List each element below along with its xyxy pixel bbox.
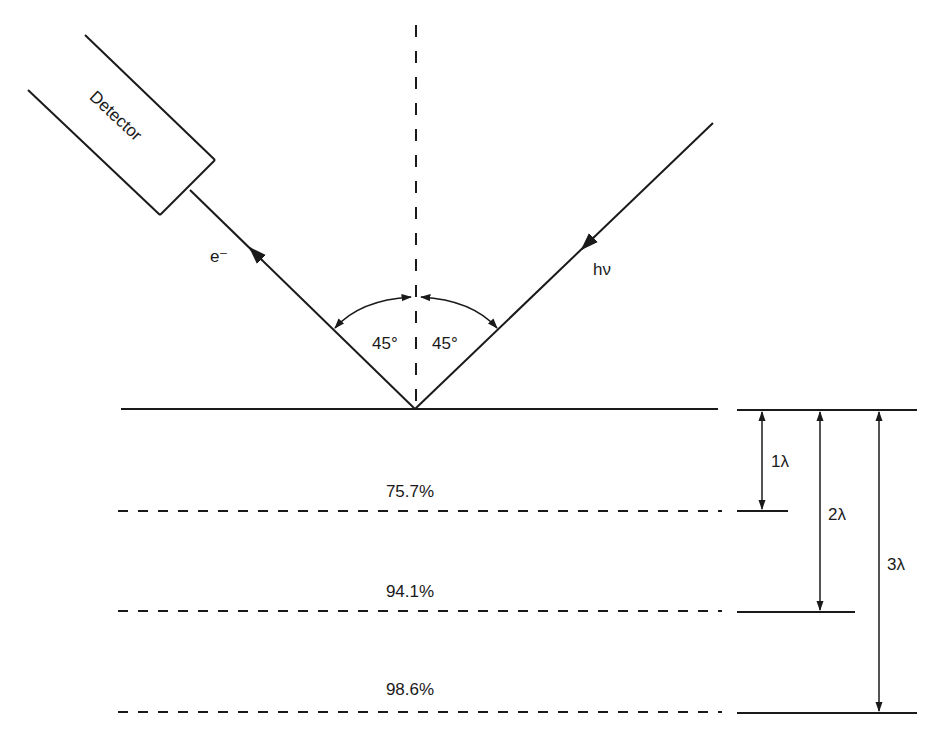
photon-beam [415,123,713,409]
depth-level-1: 75.7% [118,482,722,511]
percent-label: 98.6% [386,680,434,699]
depth-level-3: 98.6% [118,680,722,712]
electron-label: e⁻ [210,247,228,266]
percent-label: 75.7% [386,482,434,501]
depth-label-1: 1λ [771,452,789,471]
percent-label: 94.1% [386,582,434,601]
detector: Detector [28,35,215,215]
depth-label-2: 2λ [828,505,846,524]
angle-right-label: 45° [432,334,458,353]
photon-arrow-icon [582,237,594,249]
detector-label: Detector [86,87,146,145]
angle-arc-left [335,297,411,328]
angle-arc-right [421,297,497,328]
depth-scale: 1λ 2λ 3λ [737,410,917,713]
xps-depth-diagram: Detector e⁻ hν 45° 45° 75.7% 94.1% 98.6%… [0,0,938,739]
electron-beam [190,190,415,409]
depth-label-3: 3λ [887,555,905,574]
depth-level-2: 94.1% [118,582,722,611]
angle-left-label: 45° [372,334,398,353]
photon-label: hν [593,260,611,279]
electron-arrow-icon [250,248,262,260]
